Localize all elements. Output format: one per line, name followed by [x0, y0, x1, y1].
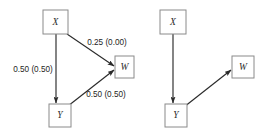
diagram-canvas: XWYXWY 0.25 (0.00)0.50 (0.50)0.50 (0.50): [0, 0, 260, 136]
node-x: X: [43, 10, 68, 34]
edge-y-to-w: [68, 70, 114, 106]
node-w: W: [115, 56, 134, 78]
edge-label-x-to-y: 0.50 (0.50): [13, 65, 53, 74]
node-w2: W: [232, 56, 254, 78]
nodes-layer: XWYXWY: [43, 10, 254, 127]
node-x2: X: [160, 10, 186, 34]
edge-labels-layer: 0.25 (0.00)0.50 (0.50)0.50 (0.50): [13, 38, 127, 99]
node-label-w: W: [121, 62, 130, 72]
edge-label-y-to-w: 0.50 (0.50): [86, 90, 126, 99]
node-y2: Y: [165, 104, 187, 127]
edge-label-x-to-w: 0.25 (0.00): [87, 38, 127, 47]
node-y: Y: [49, 104, 71, 127]
path-diagram-figure: XWYXWY 0.25 (0.00)0.50 (0.50)0.50 (0.50): [0, 0, 260, 136]
edge-y2-to-w2: [184, 70, 231, 107]
edges-layer: [56, 34, 231, 107]
node-label-x: X: [52, 17, 60, 27]
node-label-w2: W: [239, 62, 248, 72]
node-label-x2: X: [169, 17, 177, 27]
